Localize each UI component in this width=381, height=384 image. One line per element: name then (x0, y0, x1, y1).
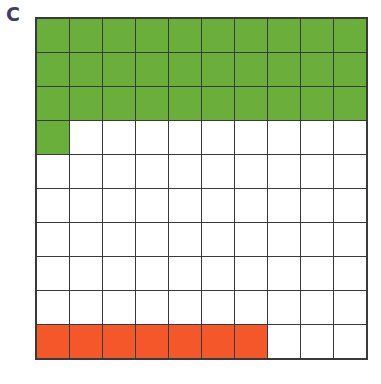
figure-label: C (6, 5, 20, 24)
grid-cell-green (103, 19, 135, 52)
grid-cell-empty (202, 291, 234, 324)
grid-cell-empty (235, 291, 267, 324)
grid-cell-green (334, 53, 366, 86)
grid-cell-empty (37, 257, 69, 290)
grid-cell-empty (37, 155, 69, 188)
grid-cell-empty (136, 121, 168, 154)
hundred-grid (35, 17, 368, 360)
grid-cell-green (37, 19, 69, 52)
grid-cell-empty (136, 155, 168, 188)
grid-cell-empty (268, 155, 300, 188)
grid-cell-empty (169, 291, 201, 324)
grid-cell-empty (103, 223, 135, 256)
grid-cell-empty (334, 121, 366, 154)
grid-cell-green (169, 87, 201, 120)
grid-cell-empty (202, 257, 234, 290)
grid-cell-red (202, 325, 234, 358)
grid-cell-empty (103, 189, 135, 222)
grid-cell-empty (268, 257, 300, 290)
grid-cell-green (70, 19, 102, 52)
grid-cell-green (301, 53, 333, 86)
grid-cell-red (103, 325, 135, 358)
grid-cell-empty (334, 189, 366, 222)
grid-cell-empty (202, 155, 234, 188)
grid-cell-green (70, 53, 102, 86)
grid-cell-green (268, 87, 300, 120)
grid-cell-green (202, 53, 234, 86)
grid-cell-green (37, 53, 69, 86)
grid-cell-empty (103, 155, 135, 188)
grid-cell-empty (70, 155, 102, 188)
grid-cell-green (169, 19, 201, 52)
grid-cell-red (169, 325, 201, 358)
grid-cell-empty (334, 223, 366, 256)
grid-cell-red (235, 325, 267, 358)
grid-cell-empty (268, 121, 300, 154)
grid-cell-empty (334, 291, 366, 324)
grid-cell-green (136, 53, 168, 86)
grid-cell-green (136, 19, 168, 52)
grid-cell-empty (70, 257, 102, 290)
grid-cell-green (37, 87, 69, 120)
grid-cell-empty (235, 155, 267, 188)
grid-cell-green (235, 53, 267, 86)
grid-cell-empty (235, 223, 267, 256)
grid-cell-empty (103, 121, 135, 154)
grid-cell-empty (70, 223, 102, 256)
grid-cell-empty (301, 325, 333, 358)
grid-cell-empty (70, 291, 102, 324)
grid-cell-green (103, 87, 135, 120)
grid-cell-empty (70, 121, 102, 154)
grid-cell-empty (169, 155, 201, 188)
grid-cell-green (202, 19, 234, 52)
grid-cell-empty (301, 189, 333, 222)
grid-cell-empty (37, 189, 69, 222)
grid-cell-empty (235, 189, 267, 222)
grid-cell-empty (268, 189, 300, 222)
grid-cell-green (70, 87, 102, 120)
grid-cell-empty (202, 121, 234, 154)
grid-cell-green (301, 19, 333, 52)
grid-cell-empty (268, 291, 300, 324)
grid-cell-empty (268, 325, 300, 358)
grid-cell-green (235, 19, 267, 52)
grid-cell-green (235, 87, 267, 120)
grid-cell-empty (301, 291, 333, 324)
grid-cell-empty (136, 257, 168, 290)
grid-cell-green (301, 87, 333, 120)
grid-cell-empty (169, 257, 201, 290)
grid-cell-green (334, 19, 366, 52)
grid-cell-empty (136, 189, 168, 222)
grid-cell-empty (202, 189, 234, 222)
grid-cell-green (169, 53, 201, 86)
grid-cell-empty (301, 257, 333, 290)
grid-cell-empty (235, 257, 267, 290)
grid-cell-red (37, 325, 69, 358)
grid-cell-empty (202, 223, 234, 256)
grid-cell-empty (70, 189, 102, 222)
grid-cell-empty (37, 291, 69, 324)
grid-cell-empty (301, 155, 333, 188)
grid-cell-empty (103, 291, 135, 324)
grid-cell-green (334, 87, 366, 120)
grid-cell-empty (334, 155, 366, 188)
grid-cell-empty (301, 121, 333, 154)
grid-cell-empty (37, 223, 69, 256)
grid-cell-empty (169, 121, 201, 154)
grid-cell-empty (334, 325, 366, 358)
grid-cell-empty (301, 223, 333, 256)
grid-cell-green (103, 53, 135, 86)
grid-cell-empty (136, 223, 168, 256)
grid-cell-green (202, 87, 234, 120)
grid-cell-green (37, 121, 69, 154)
grid-cell-empty (235, 121, 267, 154)
grid-cell-empty (169, 223, 201, 256)
grid-cell-empty (169, 189, 201, 222)
grid-cell-green (268, 19, 300, 52)
grid-cell-green (268, 53, 300, 86)
grid-cell-red (70, 325, 102, 358)
grid-cell-empty (103, 257, 135, 290)
grid-cell-red (136, 325, 168, 358)
grid-cell-empty (334, 257, 366, 290)
grid-cell-empty (268, 223, 300, 256)
